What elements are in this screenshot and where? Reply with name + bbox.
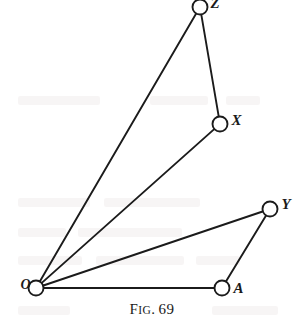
caption-smallcaps: IG (138, 304, 151, 316)
figure-caption: FIG.69 (0, 300, 304, 318)
node-layer (29, 0, 278, 296)
node-point-a (215, 281, 230, 296)
edge-layer (40, 13, 267, 288)
node-label-z: Z (211, 0, 220, 11)
caption-prefix: F (129, 301, 138, 317)
node-label-o: O (21, 278, 31, 292)
figure-container: OZXYA FIG.69 (0, 0, 304, 326)
caption-period: . (151, 301, 155, 317)
node-point-o (29, 281, 44, 296)
vector-diagram (0, 0, 304, 326)
node-label-a: A (234, 281, 244, 296)
edge-o-x (41, 129, 215, 284)
node-label-x: X (232, 113, 242, 128)
edge-z-x (201, 14, 219, 117)
edge-y-a (226, 215, 267, 282)
node-point-y (263, 202, 278, 217)
node-point-z (193, 0, 208, 15)
node-label-y: Y (282, 197, 291, 212)
caption-number: 69 (159, 301, 175, 317)
node-point-x (213, 117, 228, 132)
